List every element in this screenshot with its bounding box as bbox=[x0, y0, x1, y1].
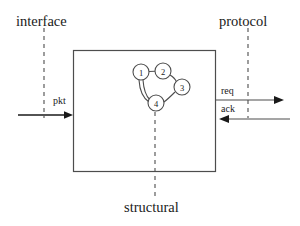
req-label: req bbox=[221, 86, 234, 96]
edge-2-3 bbox=[170, 75, 177, 82]
pkt-arrow-head bbox=[64, 111, 73, 118]
edge-1-4-b bbox=[139, 80, 149, 102]
protocol-label: protocol bbox=[219, 14, 267, 29]
ack-label: ack bbox=[221, 104, 235, 114]
graph-node-2-label: 2 bbox=[161, 67, 165, 77]
graph-node-1-label: 1 bbox=[139, 68, 143, 78]
ack-arrow-head bbox=[219, 115, 229, 123]
diagram-vector-layer: 1 2 3 4 bbox=[0, 0, 300, 226]
graph-node-3-label: 3 bbox=[180, 83, 184, 93]
diagram-canvas: 1 2 3 4 interface protocol structural pk… bbox=[0, 0, 300, 226]
req-arrow-head bbox=[274, 96, 284, 104]
interface-label: interface bbox=[16, 14, 67, 29]
graph-nodes: 1 2 3 4 bbox=[133, 63, 190, 111]
edge-3-4 bbox=[164, 92, 175, 102]
pkt-label: pkt bbox=[53, 96, 66, 106]
structural-label: structural bbox=[124, 200, 179, 215]
